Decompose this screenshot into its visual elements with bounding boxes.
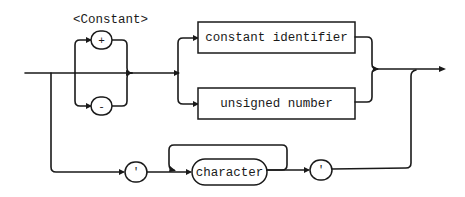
plus-branch-out xyxy=(112,40,132,73)
number-branch-out xyxy=(355,69,377,102)
arrow-icon xyxy=(169,166,176,172)
exit-arrow-icon xyxy=(439,66,446,72)
string-branch-in xyxy=(51,73,123,172)
minus-label: - xyxy=(98,101,105,113)
syntax-diagram: <Constant> + - constant identifier unsig… xyxy=(0,0,465,197)
character-label: character xyxy=(196,166,264,180)
arrow-icon xyxy=(304,167,310,173)
arrow-icon xyxy=(119,169,125,175)
plus-label: + xyxy=(98,35,105,47)
identifier-branch-out xyxy=(355,37,377,69)
constant-identifier-label: constant identifier xyxy=(205,31,348,45)
quote-open-label: ' xyxy=(133,166,140,178)
diagram-title: <Constant> xyxy=(73,13,148,27)
identifier-branch-in xyxy=(178,38,197,73)
arrow-icon xyxy=(186,169,192,175)
unsigned-number-label: unsigned number xyxy=(220,97,333,111)
arrow-icon xyxy=(174,70,180,76)
plus-branch-in xyxy=(75,40,90,73)
minus-branch-in xyxy=(75,73,90,106)
minus-branch-out xyxy=(112,73,132,106)
arrow-icon xyxy=(126,70,132,76)
number-branch-in xyxy=(178,73,197,104)
quote-close-label: ' xyxy=(318,164,325,176)
